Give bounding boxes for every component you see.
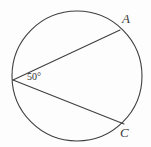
angle-measure-label: 50° (27, 72, 41, 82)
chord-to-point-c (13, 80, 124, 124)
point-label-a: A (122, 12, 130, 25)
geometry-figure: A C 50° (0, 0, 151, 147)
point-label-c: C (120, 126, 129, 139)
